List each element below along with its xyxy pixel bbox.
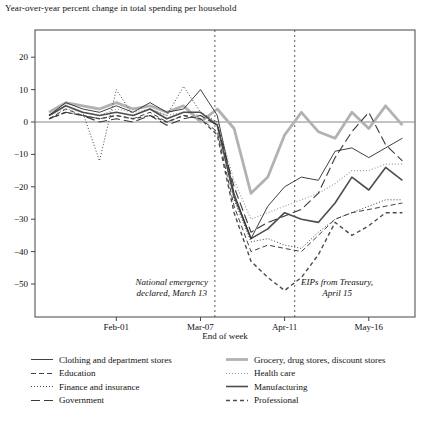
legend-item-manufacturing: Manufacturing bbox=[226, 380, 385, 394]
legend-item-finance: Finance and insurance bbox=[31, 380, 172, 394]
legend-column-right: Grocery, drug stores, discount stores He… bbox=[226, 353, 385, 407]
legend-item-clothing: Clothing and department stores bbox=[31, 353, 172, 367]
annotation-eips-treasury: EIPs from Treasury, April 15 bbox=[301, 277, 373, 299]
y-tick-label: 10 bbox=[19, 85, 29, 95]
y-tick-label: 0 bbox=[24, 117, 29, 127]
x-axis-title: End of week bbox=[35, 331, 415, 341]
legend-item-grocery: Grocery, drug stores, discount stores bbox=[226, 353, 385, 367]
annotation-line: EIPs from Treasury, bbox=[301, 277, 373, 287]
legend-label: Professional bbox=[254, 395, 299, 405]
legend-label: Education bbox=[59, 368, 96, 378]
annotation-line: declared, March 13 bbox=[137, 288, 208, 298]
legend-item-health-care: Health care bbox=[226, 367, 385, 381]
annotation-national-emergency: National emergency declared, March 13 bbox=[136, 277, 208, 299]
legend-line-sample bbox=[226, 382, 248, 391]
legend-line-sample bbox=[31, 369, 53, 378]
legend-item-professional: Professional bbox=[226, 394, 385, 408]
y-tick-label: −20 bbox=[14, 182, 29, 192]
y-tick-label: −40 bbox=[14, 247, 29, 257]
legend-line-sample bbox=[31, 355, 53, 364]
y-tick-label: 20 bbox=[19, 52, 29, 62]
legend-line-sample bbox=[31, 396, 53, 405]
legend-column-left: Clothing and department stores Education… bbox=[31, 353, 172, 407]
legend-line-sample bbox=[226, 355, 248, 364]
y-tick-label: −30 bbox=[14, 214, 29, 224]
legend-label: Finance and insurance bbox=[59, 382, 139, 392]
y-tick-label: −50 bbox=[14, 279, 29, 289]
legend-line-sample bbox=[226, 369, 248, 378]
legend-line-sample bbox=[226, 396, 248, 405]
legend-item-education: Education bbox=[31, 367, 172, 381]
legend-item-government: Government bbox=[31, 394, 172, 408]
series-line-professional bbox=[49, 112, 402, 290]
legend-label: Health care bbox=[254, 368, 295, 378]
figure: Year-over-year percent change in total s… bbox=[0, 0, 425, 424]
legend-line-sample bbox=[31, 382, 53, 391]
annotation-line: April 15 bbox=[322, 288, 352, 298]
legend-label: Clothing and department stores bbox=[59, 355, 172, 365]
legend-label: Government bbox=[59, 395, 104, 405]
legend-label: Grocery, drug stores, discount stores bbox=[254, 355, 385, 365]
legend-label: Manufacturing bbox=[254, 382, 307, 392]
y-tick-label: −10 bbox=[14, 149, 29, 159]
annotation-line: National emergency bbox=[136, 277, 208, 287]
